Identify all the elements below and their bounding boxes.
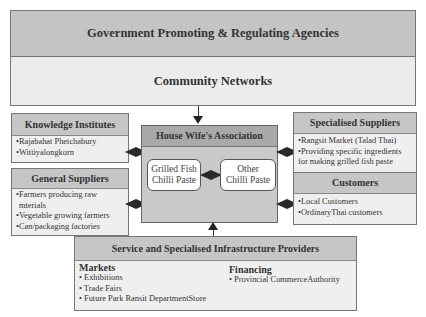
list-item: •Can/packaging factories — [16, 222, 124, 233]
specialised-suppliers-box: Specialised Suppliers •Rangsit Market (T… — [293, 112, 417, 173]
markets-title: Markets — [79, 262, 206, 273]
list-item: •OrdinaryThai customers — [298, 208, 412, 219]
house-wifes-association-title: House Wife's Association — [142, 126, 277, 147]
list-item: •Local Customers — [298, 197, 412, 208]
arrow-up-icon — [208, 222, 218, 230]
customers-box: Customers •Local Customers •OrdinaryThai… — [293, 172, 417, 225]
list-item: •Farmers producing raw — [16, 190, 124, 201]
general-suppliers-box: General Suppliers •Farmers producing raw… — [11, 168, 129, 236]
infrastructure-providers-box: Service and Specialised Infrastructure P… — [74, 236, 357, 311]
specialised-suppliers-title: Specialised Suppliers — [294, 113, 416, 134]
knowledge-institutes-box: Knowledge Institutes •Rajabahat Phetchab… — [11, 113, 129, 163]
list-item: •Wittiyalongkorn — [16, 148, 124, 159]
list-item: mterials — [16, 201, 124, 212]
government-agencies-box: Government Promoting & Regulating Agenci… — [10, 10, 416, 57]
list-item: • Trade Fairs — [79, 284, 206, 295]
financing-title: Financing — [229, 264, 340, 275]
markets-section: Markets • Exhibitions • Trade Fairs • Fu… — [79, 262, 206, 305]
product-label-line: Chilli Paste — [226, 175, 270, 187]
financing-section: Financing • Provincial CommerceAuthority — [229, 264, 340, 286]
product-label-line: Chilli Paste — [152, 175, 196, 187]
list-item: for making grilled fish paste — [298, 157, 412, 168]
list-item: •Rangsit Market (Talad Thai) — [298, 136, 412, 147]
arrow-down-icon — [193, 116, 203, 124]
government-agencies-label: Government Promoting & Regulating Agenci… — [87, 26, 339, 41]
other-chilli-paste-box: Other Chilli Paste — [220, 159, 276, 191]
infrastructure-providers-title: Service and Specialised Infrastructure P… — [75, 237, 356, 261]
general-suppliers-title: General Suppliers — [12, 169, 128, 189]
community-networks-label: Community Networks — [154, 74, 272, 89]
list-item: • Provincial CommerceAuthority — [229, 275, 340, 286]
list-item: •Rajabahat Phetchabury — [16, 137, 124, 148]
customers-title: Customers — [294, 173, 416, 194]
list-item: • Exhibitions — [79, 273, 206, 284]
community-networks-box: Community Networks — [10, 56, 416, 106]
list-item: •Providing specific ingredients — [298, 147, 412, 158]
list-item: •Vegetable growing farmers — [16, 211, 124, 222]
list-item: • Future Park Ransit DepartmentStore — [79, 294, 206, 305]
connector-diamond-icon — [200, 170, 222, 180]
product-label-line: Other — [237, 164, 259, 176]
product-label-line: Grilled Fish — [151, 164, 197, 176]
grilled-fish-chilli-paste-box: Grilled Fish Chilli Paste — [147, 159, 201, 191]
knowledge-institutes-title: Knowledge Institutes — [12, 114, 128, 136]
house-wifes-association-box: House Wife's Association Grilled Fish Ch… — [141, 125, 278, 223]
